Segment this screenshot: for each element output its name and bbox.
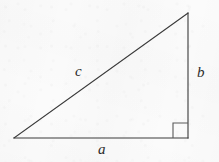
side-label-b: b (197, 65, 205, 80)
side-label-a: a (98, 142, 106, 157)
triangle-side-c-hypotenuse (14, 13, 188, 138)
right-angle-marker-icon (173, 123, 188, 138)
figure-canvas: c b a (0, 0, 219, 162)
side-label-c: c (75, 64, 82, 79)
triangle-diagram (0, 0, 219, 162)
